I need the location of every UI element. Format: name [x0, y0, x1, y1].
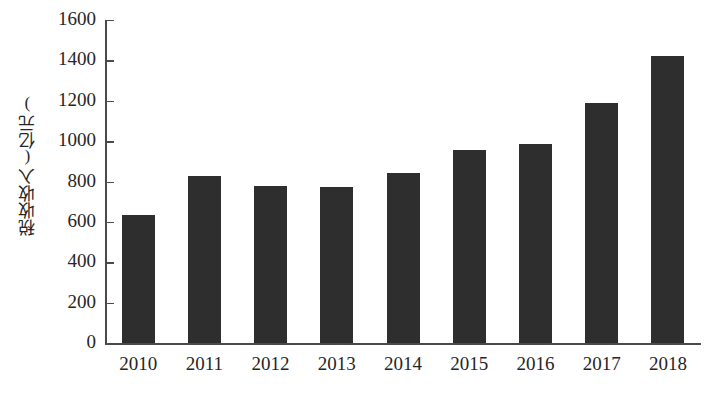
y-axis-title: 税收收入(亿元): [18, 96, 46, 236]
x-axis-spine: [105, 343, 701, 345]
bar: [188, 176, 221, 343]
y-axis-tick-label: 1000: [58, 129, 96, 151]
bar: [585, 103, 618, 343]
y-axis-tick-label: 1600: [58, 8, 96, 30]
y-axis-tick-mark: [107, 262, 114, 263]
bar: [651, 56, 684, 343]
y-axis-tick-mark: [107, 182, 114, 183]
y-axis-tick-mark: [107, 20, 114, 21]
y-axis-tick-mark: [107, 60, 114, 61]
y-axis-tick-label: 400: [68, 250, 97, 272]
y-axis-tick-mark: [107, 101, 114, 102]
y-axis-tick-label: 0: [87, 331, 97, 353]
y-axis-tick-mark: [107, 222, 114, 223]
y-axis-tick-label: 1200: [58, 89, 96, 111]
y-axis-tick-label: 800: [68, 170, 97, 192]
y-axis-tick-mark: [107, 343, 114, 344]
x-axis-tick-label: 2018: [623, 353, 713, 375]
bar: [519, 144, 552, 343]
y-axis-tick-mark: [107, 303, 114, 304]
bar: [453, 150, 486, 343]
y-axis-tick-mark: [107, 141, 114, 142]
bar: [122, 215, 155, 343]
y-axis-tick-label: 200: [68, 291, 97, 313]
y-axis-tick-label: 1400: [58, 48, 96, 70]
y-axis-tick-label: 600: [68, 210, 97, 232]
bar-chart-figure: 税收收入(亿元) 02004006008001000120014001600 2…: [0, 0, 717, 397]
bar: [387, 173, 420, 343]
bar: [320, 187, 353, 343]
bar: [254, 186, 287, 343]
plot-area: 02004006008001000120014001600 2010201120…: [105, 20, 701, 343]
